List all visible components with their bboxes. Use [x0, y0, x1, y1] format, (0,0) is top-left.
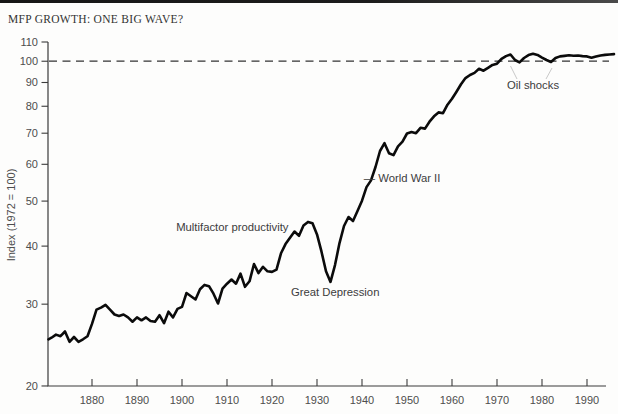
oil-shock-leader-1974 [511, 66, 518, 79]
x-tick-label: 1950 [395, 394, 419, 406]
annotation-oil-shocks: Oil shocks [507, 79, 559, 91]
y-axis-title: Index (1972 = 100) [5, 169, 17, 262]
mfp-series-line [49, 54, 615, 342]
mfp-growth-line-chart: 2030405060708090100110188018901900191019… [0, 0, 618, 414]
y-tick-label: 80 [26, 100, 38, 112]
x-tick-label: 1930 [305, 394, 329, 406]
y-tick-label: 40 [26, 240, 38, 252]
y-tick-label: 50 [26, 195, 38, 207]
annotation-great-depression: Great Depression [291, 286, 380, 298]
x-tick-label: 1980 [530, 394, 554, 406]
figure-page: MFP GROWTH: ONE BIG WAVE? 20304050607080… [0, 0, 618, 414]
x-tick-label: 1970 [485, 394, 509, 406]
annotation-multifactor-productivity: Multifactor productivity [176, 221, 289, 233]
x-tick-label: 1960 [440, 394, 464, 406]
x-tick-label: 1890 [125, 394, 149, 406]
x-tick-label: 1920 [260, 394, 284, 406]
y-tick-label: 90 [26, 76, 38, 88]
y-tick-label: 100 [20, 55, 38, 67]
y-tick-label: 60 [26, 158, 38, 170]
annotation-world-war-ii: — World War II [364, 172, 441, 184]
y-tick-label: 30 [26, 298, 38, 310]
x-axis-ticks: 1880189019001910192019301940195019601970… [80, 379, 599, 406]
x-tick-label: 1900 [170, 394, 194, 406]
axis-frame [48, 42, 606, 386]
y-tick-label: 110 [20, 36, 38, 48]
y-tick-label: 70 [26, 127, 38, 139]
y-axis-ticks: 2030405060708090100110 [20, 36, 48, 392]
x-tick-label: 1880 [80, 394, 104, 406]
y-tick-label: 20 [26, 380, 38, 392]
oil-shock-leader-1980 [546, 68, 552, 79]
x-tick-label: 1990 [575, 394, 599, 406]
annotations: Multifactor productivityGreat Depression… [176, 79, 559, 297]
x-tick-label: 1940 [350, 394, 374, 406]
x-tick-label: 1910 [215, 394, 239, 406]
